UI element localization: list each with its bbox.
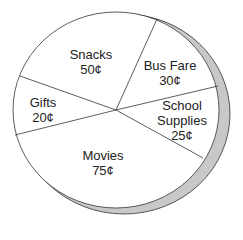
slice-label-gifts: Gifts 20¢: [30, 95, 57, 125]
slice-label-snacks: Snacks 50¢: [70, 47, 113, 77]
slice-value: 25¢: [157, 128, 207, 143]
slice-value: 75¢: [82, 163, 123, 178]
slice-name: School: [157, 98, 207, 113]
slice-name: Snacks: [70, 47, 113, 62]
slice-name-line2: Supplies: [157, 113, 207, 128]
slice-name: Gifts: [30, 95, 57, 110]
slice-value: 50¢: [70, 62, 113, 77]
slice-name: Movies: [82, 148, 123, 163]
slice-label-movies: Movies 75¢: [82, 148, 123, 178]
slice-value: 20¢: [30, 110, 57, 125]
slice-value: 30¢: [144, 73, 197, 88]
slice-name: Bus Fare: [144, 58, 197, 73]
slice-label-bus-fare: Bus Fare 30¢: [144, 58, 197, 88]
slice-label-school-supplies: School Supplies 25¢: [157, 98, 207, 143]
